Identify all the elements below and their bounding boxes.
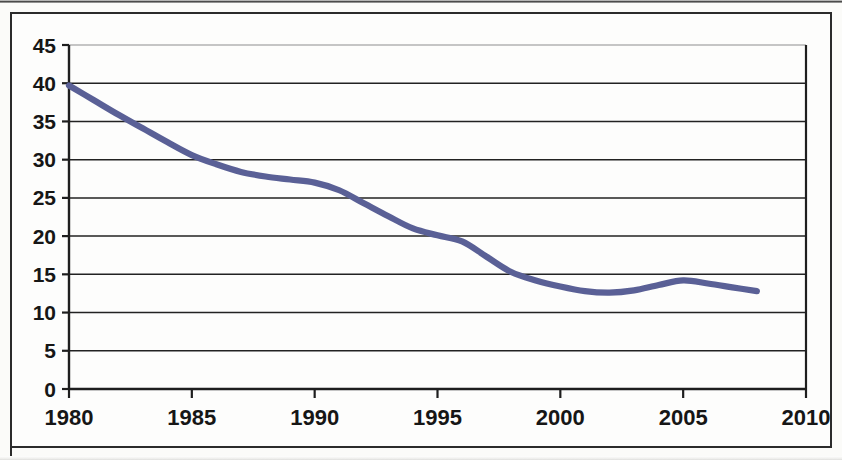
y-tick-label: 10 xyxy=(33,301,56,324)
y-tick-label: 0 xyxy=(44,378,56,401)
y-tick-label: 45 xyxy=(33,34,57,57)
y-tick-label: 40 xyxy=(33,72,56,95)
x-tick-label: 1980 xyxy=(45,405,94,430)
scan-bottom-edge-artifact xyxy=(0,456,842,460)
x-axis-ticks xyxy=(69,389,806,398)
scanned-chart-page: 051015202530354045 198019851990199520002… xyxy=(0,0,842,460)
data-series-line xyxy=(69,86,757,293)
x-tick-label: 1985 xyxy=(167,405,216,430)
y-tick-label: 35 xyxy=(33,110,57,133)
y-tick-label: 25 xyxy=(33,186,57,209)
y-tick-label: 30 xyxy=(33,148,56,171)
x-tick-label: 2000 xyxy=(536,405,585,430)
x-tick-label: 1995 xyxy=(413,405,462,430)
y-gridlines xyxy=(69,45,806,389)
y-tick-label: 20 xyxy=(33,225,56,248)
x-axis-tick-labels: 1980198519901995200020052010 xyxy=(45,405,831,430)
y-tick-label: 15 xyxy=(33,263,57,286)
x-tick-label: 2005 xyxy=(659,405,708,430)
line-chart-plot: 051015202530354045 198019851990199520002… xyxy=(0,0,842,460)
y-tick-label: 5 xyxy=(44,339,56,362)
y-axis-tick-labels: 051015202530354045 xyxy=(33,34,57,401)
x-tick-label: 2010 xyxy=(782,405,831,430)
x-tick-label: 1990 xyxy=(290,405,339,430)
